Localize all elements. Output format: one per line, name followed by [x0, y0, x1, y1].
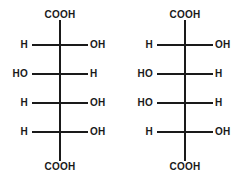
- top-carboxyl-label-right: COOH: [165, 9, 205, 20]
- substituent-right-3-left: HO: [119, 97, 153, 108]
- backbone-line-left: [59, 20, 61, 161]
- bottom-carboxyl-label-right: COOH: [165, 161, 205, 172]
- bottom-carboxyl-label-left: COOH: [40, 161, 80, 172]
- substituent-right-4-left: H: [119, 126, 153, 137]
- bond-rung-left-2: [32, 73, 88, 75]
- bond-rung-left-3: [32, 102, 88, 104]
- substituent-right-4-right: OH: [215, 126, 240, 137]
- bond-rung-right-1: [157, 44, 213, 46]
- substituent-right-2-left: HO: [119, 68, 153, 79]
- substituent-right-1-right: OH: [215, 39, 240, 50]
- bond-rung-left-4: [32, 131, 88, 133]
- backbone-line-right: [184, 20, 186, 161]
- fischer-structure-left: COOH H OH HO H H OH H OH COOH: [0, 0, 120, 180]
- substituent-right-1-left: H: [119, 39, 153, 50]
- bond-rung-left-1: [32, 44, 88, 46]
- substituent-left-3-left: H: [0, 97, 28, 108]
- bond-rung-right-3: [157, 102, 213, 104]
- top-carboxyl-label-left: COOH: [40, 9, 80, 20]
- fischer-structure-right: COOH H OH HO H HO H H OH COOH: [125, 0, 240, 180]
- substituent-left-4-left: H: [0, 126, 28, 137]
- bond-rung-right-4: [157, 131, 213, 133]
- fischer-projection-diagram: COOH H OH HO H H OH H OH COOH COOH H OH …: [0, 0, 240, 180]
- substituent-right-3-right: H: [215, 97, 240, 108]
- substituent-left-2-left: HO: [0, 68, 28, 79]
- bond-rung-right-2: [157, 73, 213, 75]
- substituent-left-1-left: H: [0, 39, 28, 50]
- substituent-right-2-right: H: [215, 68, 240, 79]
